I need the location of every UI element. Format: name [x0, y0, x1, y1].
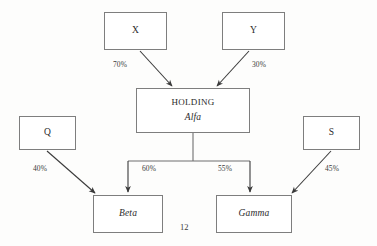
- node-gamma[interactable]: Gamma: [216, 195, 292, 233]
- node-y-label: Y: [250, 25, 257, 37]
- edge-q-beta: [47, 151, 95, 193]
- edge-holding-split: [128, 133, 250, 161]
- node-beta-label: Beta: [119, 208, 137, 220]
- node-s-label: S: [329, 127, 334, 139]
- node-q-label: Q: [44, 127, 51, 139]
- page-number: 12: [180, 222, 189, 232]
- node-y[interactable]: Y: [222, 12, 285, 50]
- node-holding-sublabel: Alfa: [185, 112, 202, 124]
- edge-label-holding-gamma: 55%: [218, 164, 232, 173]
- edge-y-holding: [217, 51, 249, 86]
- node-s[interactable]: S: [303, 116, 360, 150]
- node-holding-label: HOLDING: [171, 97, 214, 108]
- node-x[interactable]: X: [104, 12, 167, 50]
- edge-label-holding-beta: 60%: [142, 164, 156, 173]
- edge-label-x-holding: 70%: [113, 60, 127, 69]
- node-holding[interactable]: HOLDING Alfa: [136, 88, 250, 133]
- edge-x-holding: [140, 51, 172, 86]
- edge-label-q-beta: 40%: [33, 164, 47, 173]
- node-beta[interactable]: Beta: [93, 195, 163, 233]
- edge-label-s-gamma: 45%: [325, 164, 339, 173]
- node-q[interactable]: Q: [19, 116, 76, 150]
- node-gamma-label: Gamma: [238, 208, 269, 220]
- diagram-canvas: X Y HOLDING Alfa Q S Beta Gamma 70% 30% …: [0, 0, 377, 246]
- edge-label-y-holding: 30%: [252, 60, 266, 69]
- node-x-label: X: [132, 25, 139, 37]
